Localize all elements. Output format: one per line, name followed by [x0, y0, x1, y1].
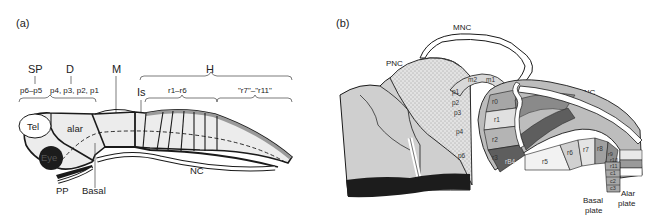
label-c2: c2: [610, 178, 616, 184]
label-pp: PP: [56, 185, 69, 196]
label-r7: r7: [583, 146, 589, 153]
panel-a-lateral-embryo-diagram: (a) SP D M H Is p6–p5 p4, p3, p2, p1 r1–…: [0, 0, 320, 223]
panel-b-tag: (b): [336, 17, 349, 29]
label-p6: p6: [458, 152, 466, 160]
label-sp-range: p6–p5: [20, 86, 43, 95]
label-r8: r8: [597, 145, 603, 152]
label-pnc: PNC: [386, 59, 403, 68]
label-sp: SP: [28, 63, 43, 75]
label-m1: m1: [486, 76, 495, 83]
label-alar-plate-line2: plate: [618, 199, 636, 208]
label-p1: p1: [452, 88, 460, 96]
label-tel: Tel: [27, 121, 39, 132]
label-r3: r3: [492, 154, 498, 161]
panel-b-fate-map-diagram: (b) MNC PNC RNC m2 m1 p1 p2 p3 p4 p6: [320, 0, 645, 223]
label-basal: Basal: [82, 185, 106, 196]
panel-a-tag: (a): [16, 17, 29, 29]
label-alar-plate-line1: Alar: [621, 189, 636, 198]
label-r1-r6: r1–r6: [168, 86, 187, 95]
label-r6: r6: [567, 149, 573, 156]
label-isthmus: Is: [137, 86, 146, 98]
label-d-range: p4, p3, p2, p1: [50, 86, 99, 95]
label-mnc: MNC: [453, 23, 471, 32]
label-r0: r0: [492, 98, 498, 105]
label-r7-r11: "r7"–"r11": [238, 86, 272, 95]
label-r5: r5: [542, 158, 548, 165]
label-basal-plate-line1: Basal: [583, 196, 603, 205]
label-m: M: [112, 63, 121, 75]
label-basal-plate-line2: plate: [585, 206, 603, 215]
panel-a-drawing: (a) SP D M H Is p6–p5 p4, p3, p2, p1 r1–…: [0, 0, 320, 223]
label-r4: rB4: [505, 158, 516, 165]
label-r11: r11: [610, 163, 618, 169]
label-r1: r1: [494, 116, 500, 123]
label-r2: r2: [492, 136, 498, 143]
label-nc: NC: [190, 165, 204, 176]
label-p3: p3: [454, 109, 462, 117]
label-alar: alar: [67, 123, 83, 134]
label-d: D: [66, 63, 74, 75]
label-p2: p2: [452, 99, 460, 107]
label-c1: c1: [610, 170, 616, 176]
label-p4: p4: [456, 128, 464, 136]
label-m2: m2: [468, 76, 477, 83]
label-eye: Eye: [41, 152, 57, 163]
label-c3: c3: [610, 185, 616, 191]
panel-b-drawing: (b) MNC PNC RNC m2 m1 p1 p2 p3 p4 p6: [320, 0, 645, 223]
